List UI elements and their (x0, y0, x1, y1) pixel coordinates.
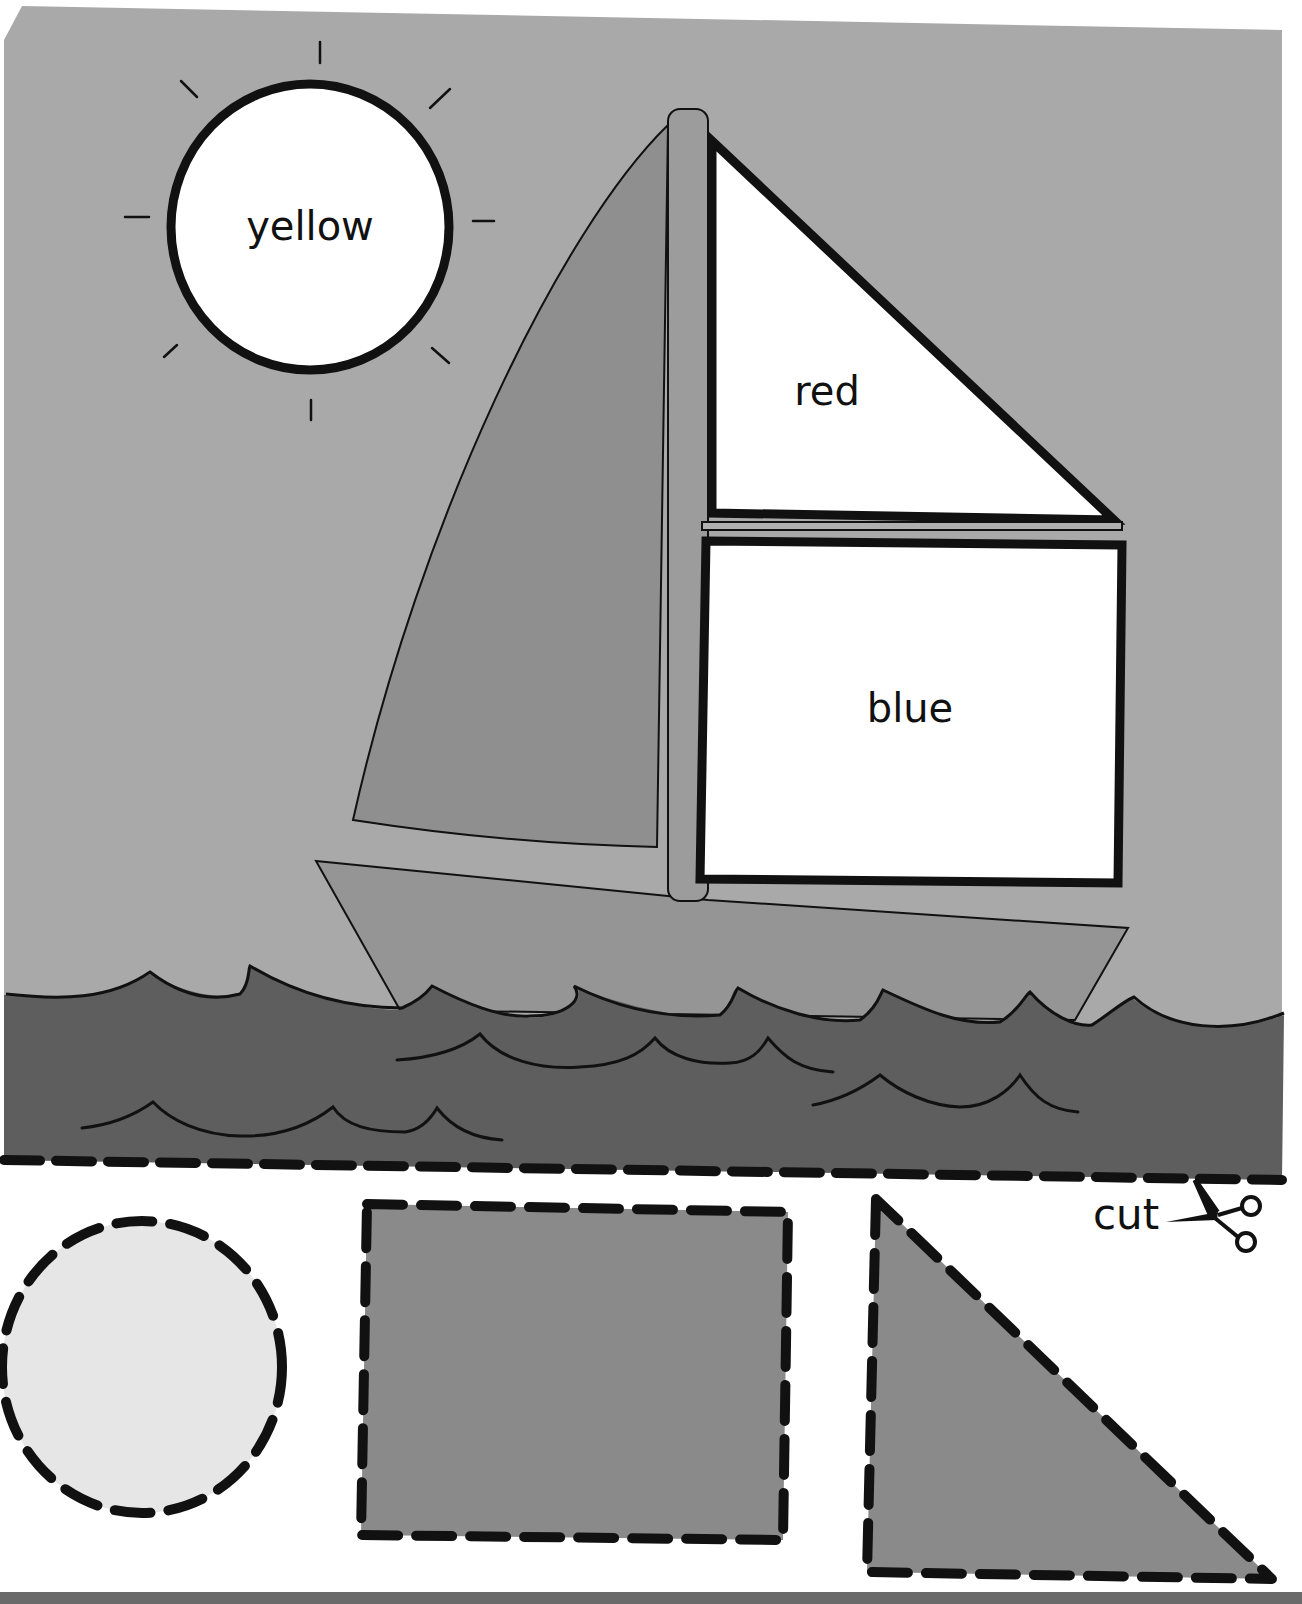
cutout-triangle[interactable] (867, 1199, 1272, 1579)
cut-label: cut (1093, 1190, 1159, 1239)
sailboat-cut-and-paste-worksheet: yellow red blue cut (0, 0, 1302, 1604)
top-sail-color-label: red (794, 368, 860, 414)
scissors-icon (1166, 1180, 1260, 1251)
main-sail-color-label: blue (867, 685, 953, 731)
boom-bar (702, 522, 1122, 530)
cutout-rectangle[interactable] (361, 1204, 788, 1540)
cutout-circle[interactable] (2, 1221, 282, 1513)
sun-color-label: yellow (246, 203, 374, 249)
bottom-edge-bar (0, 1592, 1302, 1604)
